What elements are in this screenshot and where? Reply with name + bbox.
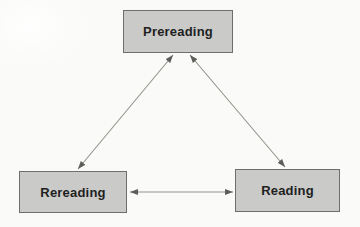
node-rereading-label: Rereading [40, 185, 105, 200]
node-rereading: Rereading [19, 171, 127, 213]
edge-prereading-reading [190, 55, 285, 167]
node-prereading-label: Prereading [143, 24, 213, 39]
node-reading: Reading [235, 169, 340, 212]
diagram-canvas: Prereading Rereading Reading [0, 0, 360, 227]
node-prereading: Prereading [123, 10, 233, 53]
node-reading-label: Reading [261, 183, 314, 198]
edge-prereading-rereading [78, 55, 173, 169]
